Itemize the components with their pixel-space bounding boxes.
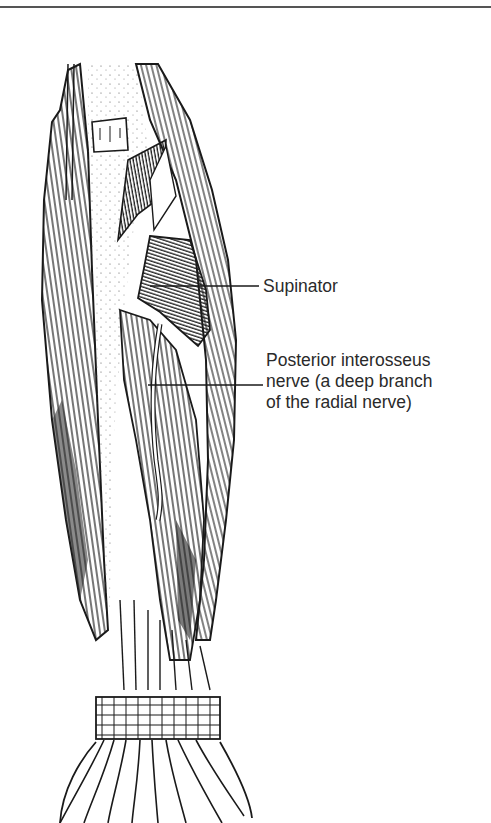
extensor-retinaculum bbox=[96, 697, 220, 739]
nerve-label-line-3: of the radial nerve) bbox=[266, 392, 432, 413]
posterior-interosseus-nerve-label: Posterior interosseus nerve (a deep bran… bbox=[266, 350, 432, 413]
nerve-label-line-1: Posterior interosseus bbox=[266, 350, 432, 371]
supinator-label: Supinator bbox=[263, 276, 338, 297]
nerve-label-line-2: nerve (a deep branch bbox=[266, 371, 432, 392]
